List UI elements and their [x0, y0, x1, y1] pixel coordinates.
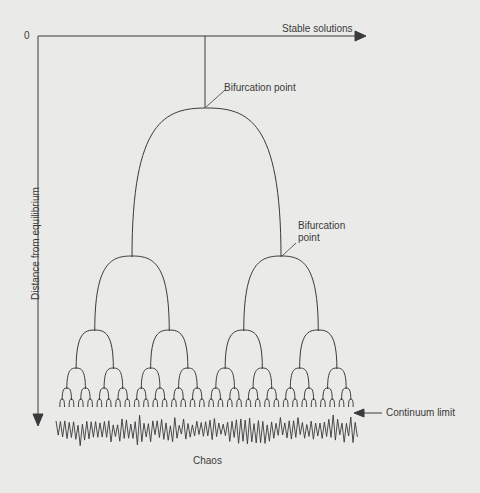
bifurcation-branch — [193, 388, 202, 400]
bifurcation-branch — [265, 399, 270, 407]
bifurcation-branch — [99, 388, 108, 400]
bifurcation-branch — [253, 368, 272, 389]
bifurcation-branch — [293, 399, 298, 407]
bifurcation-branch — [237, 399, 242, 407]
bifurcation-diagram: 0 Stable solutions Distance from equilib… — [0, 0, 480, 493]
bifurcation-branch — [321, 399, 326, 407]
bifurcation-branch — [67, 368, 86, 389]
y-axis-arrow-icon — [33, 414, 43, 426]
bifurcation-branch — [216, 368, 235, 389]
bifurcation-branch — [141, 368, 160, 389]
bifurcation-arches — [60, 108, 353, 407]
bifurcation-branch — [200, 399, 205, 407]
bifurcation-branch — [69, 399, 74, 407]
continuum-limit-pointer — [354, 409, 382, 417]
bifurcation-branch — [144, 399, 149, 407]
bifurcation-branch — [132, 108, 281, 257]
bifurcation-branch — [151, 330, 188, 369]
bifurcation-branch — [342, 388, 351, 400]
bifurcation-branch — [172, 399, 177, 407]
bifurcation-branch — [283, 399, 288, 407]
bifurcation-branch — [60, 399, 65, 407]
bifurcation-branch — [97, 399, 102, 407]
chaos-signal — [56, 415, 357, 446]
bifurcation-branch — [323, 388, 332, 400]
x-axis-label: Stable solutions — [282, 23, 353, 35]
bifurcation-branch — [311, 399, 316, 407]
bifurcation-branch — [137, 388, 146, 400]
continuum-limit-label: Continuum limit — [386, 407, 455, 419]
bifurcation-branch — [255, 399, 260, 407]
bifurcation-branch — [290, 368, 309, 389]
bifurcation-pointer-1 — [206, 90, 225, 107]
bifurcation-branch — [179, 368, 198, 389]
bifurcation-branch — [155, 388, 164, 400]
bifurcation-branch — [209, 399, 214, 407]
bifurcation-branch — [330, 399, 335, 407]
bifurcation-branch — [78, 399, 83, 407]
bifurcation-tree — [0, 0, 480, 493]
bifurcation-branch — [81, 388, 90, 400]
bifurcation-branch — [227, 399, 232, 407]
bifurcation-point-label-2a: Bifurcation — [298, 220, 345, 232]
bifurcation-branch — [302, 399, 307, 407]
x-axis-arrow-icon — [355, 31, 366, 41]
bifurcation-branch — [349, 399, 354, 407]
bifurcation-branch — [104, 368, 123, 389]
bifurcation-branch — [134, 399, 139, 407]
y-axis-label: Distance from equilibrium — [30, 187, 41, 300]
bifurcation-branch — [286, 388, 295, 400]
bifurcation-branch — [106, 399, 111, 407]
bifurcation-branch — [230, 388, 239, 400]
continuum-arrow-icon — [354, 409, 364, 417]
bifurcation-branch — [95, 256, 170, 331]
bifurcation-branch — [88, 399, 93, 407]
bifurcation-branch — [225, 330, 262, 369]
bifurcation-branch — [274, 399, 279, 407]
bifurcation-branch — [218, 399, 223, 407]
bifurcation-branch — [174, 388, 183, 400]
bifurcation-pointer-2 — [282, 243, 296, 256]
bifurcation-branch — [125, 399, 130, 407]
bifurcation-branch — [118, 388, 127, 400]
chaos-label: Chaos — [193, 455, 222, 467]
bifurcation-branch — [153, 399, 158, 407]
bifurcation-point-label-2b: point — [298, 232, 320, 244]
bifurcation-branch — [62, 388, 71, 400]
bifurcation-branch — [246, 399, 251, 407]
bifurcation-branch — [248, 388, 257, 400]
bifurcation-branch — [267, 388, 276, 400]
bifurcation-point-label-1: Bifurcation point — [224, 82, 296, 94]
bifurcation-branch — [300, 330, 337, 369]
bifurcation-branch — [116, 399, 121, 407]
bifurcation-branch — [190, 399, 195, 407]
bifurcation-branch — [339, 399, 344, 407]
bifurcation-branch — [162, 399, 167, 407]
bifurcation-branch — [76, 330, 113, 369]
origin-label: 0 — [24, 30, 30, 42]
bifurcation-branch — [211, 388, 220, 400]
bifurcation-branch — [244, 256, 319, 331]
bifurcation-branch — [328, 368, 347, 389]
bifurcation-branch — [304, 388, 313, 400]
bifurcation-branch — [181, 399, 186, 407]
